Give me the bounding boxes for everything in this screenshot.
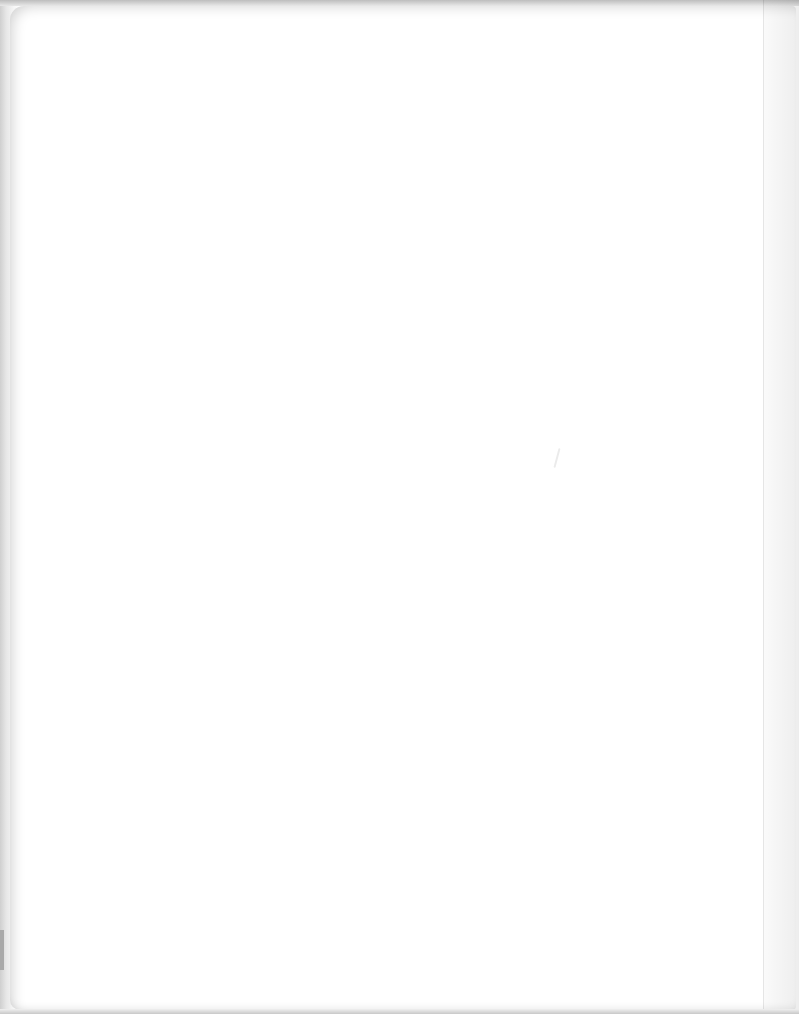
scan-right-margin-shade [764,0,799,1014]
scan-left-edge-mark [0,930,4,970]
scan-bottom-edge-shadow [0,1009,799,1014]
blank-page [10,6,796,1010]
page-content [70,66,716,950]
scanned-document [0,0,799,1014]
page-fold-line [763,0,764,1014]
